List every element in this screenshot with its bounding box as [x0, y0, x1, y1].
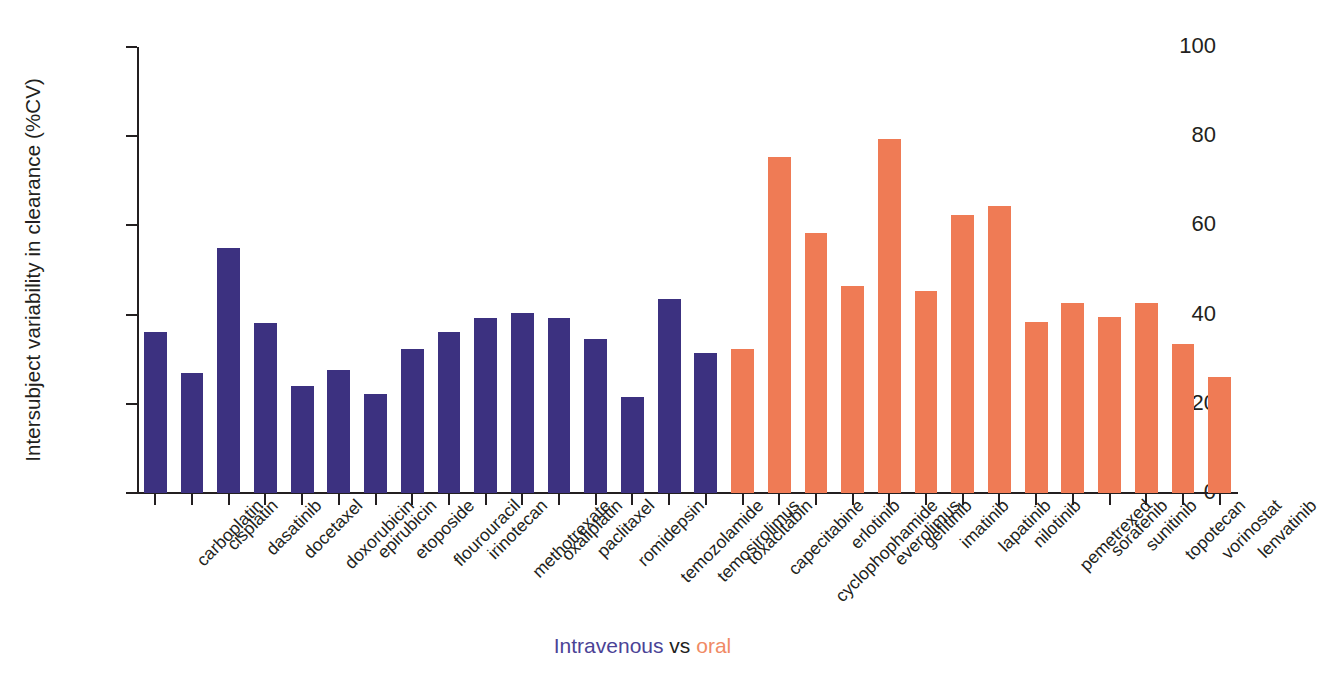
legend-label-oral: oral: [696, 634, 731, 657]
bar-everolimus: [841, 286, 864, 493]
bar-lenvatinib: [1208, 377, 1231, 493]
bar-carboplatin: [144, 332, 167, 493]
y-tick-label: 80: [1096, 124, 1216, 146]
y-tick-label: 100: [1096, 35, 1216, 57]
bar-epirubicin: [327, 370, 350, 493]
bar-paclitaxel: [548, 318, 571, 493]
y-axis-title: Intersubject variability in clearance (%…: [21, 35, 45, 505]
bar-gefitinib: [878, 139, 901, 493]
legend-label-intravenous: Intravenous: [554, 634, 664, 657]
y-tick: [126, 135, 137, 137]
y-tick: [126, 492, 137, 494]
y-tick: [126, 224, 137, 226]
bar-dasatinib: [217, 248, 240, 493]
chart-legend: Intravenous vs oral: [0, 634, 1285, 658]
bar-docetaxel: [254, 323, 277, 493]
bar-romidepsin: [584, 339, 607, 493]
bar-sunitinib: [1098, 317, 1121, 493]
bar-sorafenib: [1061, 303, 1084, 493]
bar-cisplatin: [181, 373, 204, 493]
bar-temozolamide: [621, 397, 644, 493]
bar-etoposide: [364, 394, 387, 493]
bar-oxaliplatin: [511, 313, 534, 493]
bar-pemetrexed: [1025, 322, 1048, 493]
bar-lapatinib: [951, 215, 974, 493]
bar-topotecan: [1135, 303, 1158, 493]
bar-cyclophophamide: [768, 157, 791, 493]
bar-flourouracil: [401, 349, 424, 493]
bar-temosirolimus: [658, 299, 681, 493]
bar-irinotecan: [438, 332, 461, 493]
bar-imatinib: [915, 291, 938, 493]
x-axis-labels: carboplatincisplatindasatinibdocetaxeldo…: [137, 496, 1238, 636]
bar-toxacitabin: [694, 353, 717, 493]
y-tick: [126, 403, 137, 405]
bar-nilotinib: [988, 206, 1011, 493]
plot-area: 020406080100: [137, 47, 1238, 493]
bar-doxorubicin: [291, 386, 314, 493]
y-tick-label: 60: [1096, 213, 1216, 235]
bar-vorinostat: [1172, 344, 1195, 493]
bar-methotrexate: [474, 318, 497, 493]
bar-capecitabine: [731, 349, 754, 494]
legend-separator: vs: [669, 634, 690, 657]
y-tick: [126, 314, 137, 316]
bar-erlotinib: [805, 233, 828, 493]
y-tick: [126, 46, 137, 48]
